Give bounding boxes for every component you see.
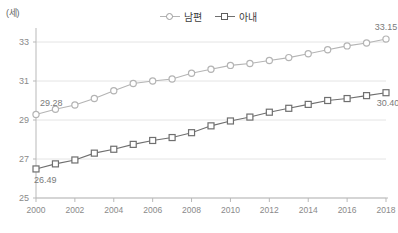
svg-text:2006: 2006 [143,205,162,215]
svg-text:33.15: 33.15 [375,22,398,32]
svg-text:2002: 2002 [65,205,84,215]
svg-text:29.28: 29.28 [40,98,63,108]
svg-text:2018: 2018 [377,205,396,215]
svg-text:2014: 2014 [299,205,318,215]
svg-text:2012: 2012 [260,205,279,215]
x-axis: 2000200220042006200820102012201420162018 [27,198,396,215]
svg-text:2016: 2016 [338,205,357,215]
chart-container: (세) 남편 아내 2527293133 2000200220042006200… [0,0,398,233]
svg-text:29: 29 [19,115,29,125]
svg-text:26.49: 26.49 [34,175,57,185]
svg-text:2004: 2004 [104,205,123,215]
svg-text:33: 33 [19,37,29,47]
svg-text:2008: 2008 [182,205,201,215]
svg-text:25: 25 [19,193,29,203]
chart-plot-area: 2527293133 20002002200420062008201020122… [0,0,398,233]
svg-text:27: 27 [19,154,29,164]
svg-text:2010: 2010 [221,205,240,215]
series-wife [33,90,389,172]
svg-text:2000: 2000 [27,205,46,215]
grid-lines [36,42,386,198]
svg-text:31: 31 [19,76,29,86]
series-husband [33,36,389,118]
svg-text:30.40: 30.40 [377,98,398,108]
